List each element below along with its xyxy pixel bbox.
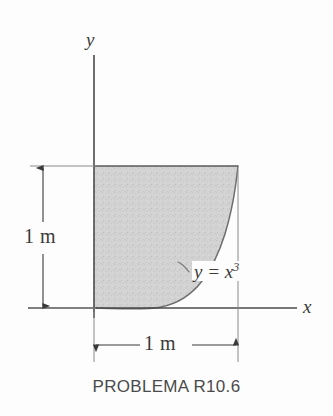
curve-equation-base: y = x xyxy=(194,261,233,282)
vertical-dimension-label: 1 m xyxy=(24,226,56,246)
figure-caption: PROBLEMA R10.6 xyxy=(0,377,333,397)
horizontal-dimension-label: 1 m xyxy=(141,333,179,353)
y-axis-label: y xyxy=(86,30,94,49)
curve-equation-exponent: 3 xyxy=(233,260,239,274)
x-axis-label: x xyxy=(303,297,311,316)
curve-equation-label: y = x3 xyxy=(192,261,241,281)
figure-container: y x 1 m 1 m y = x3 PROBLEMA R10.6 xyxy=(0,0,333,416)
shaded-region xyxy=(94,166,238,309)
